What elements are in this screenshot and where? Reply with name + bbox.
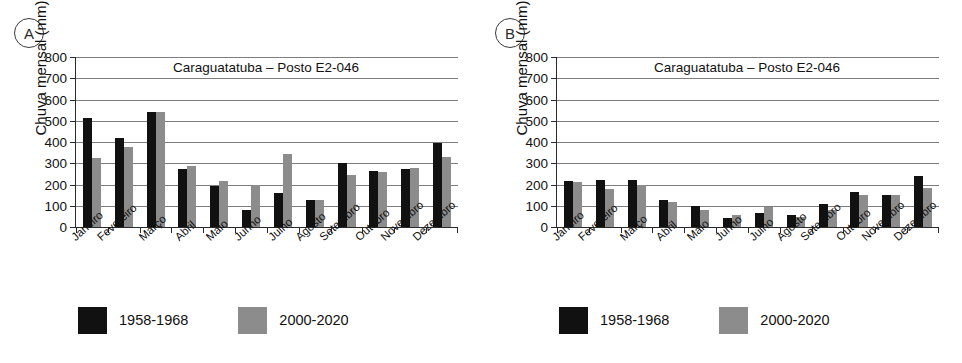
x-axis-label-cell: Maio <box>202 232 234 290</box>
y-axis-tick-label: 800 <box>44 50 67 65</box>
legend-item-1958-1968: 1958-1968 <box>559 307 669 334</box>
x-axis-label-cell: Março <box>139 232 171 290</box>
x-axis-label-cell: Abril <box>651 232 683 290</box>
x-axis-tick <box>938 227 939 233</box>
x-axis-label-cell: Setembro <box>811 232 843 290</box>
legend-item-2000-2020: 2000-2020 <box>719 307 829 334</box>
bar-group <box>684 57 716 227</box>
y-axis-tick-label: 200 <box>44 177 67 192</box>
x-axis-label-cell: Dezembro <box>425 232 457 290</box>
x-axis-labels: JaneiroFevereiroMarçoAbrilMaioJunhoJulho… <box>556 232 938 290</box>
x-axis-label-cell: Julho <box>266 232 298 290</box>
y-axis-tick-label: 100 <box>525 198 548 213</box>
y-axis-tick-label: 400 <box>44 135 67 150</box>
bar-group <box>843 57 875 227</box>
x-axis-label-cell: Junho <box>234 232 266 290</box>
x-axis-label-cell: Julho <box>747 232 779 290</box>
y-axis-tick-label: 700 <box>525 71 548 86</box>
x-axis-label-cell: Setembro <box>330 232 362 290</box>
legend-label: 2000-2020 <box>279 312 348 328</box>
x-axis-label-cell: Abril <box>170 232 202 290</box>
y-axis-tick-label: 0 <box>59 220 67 235</box>
y-axis-tick-label: 700 <box>44 71 67 86</box>
legend-item-2000-2020: 2000-2020 <box>238 307 348 334</box>
bar-group <box>171 57 203 227</box>
legend-swatch-icon <box>238 307 267 334</box>
y-axis-tick-label: 500 <box>525 113 548 128</box>
x-axis-labels: JaneiroFevereiroMarçoAbrilMaioJunhoJulho… <box>75 232 457 290</box>
x-axis-label-cell: Maio <box>683 232 715 290</box>
x-axis-label-cell: Dezembro <box>906 232 938 290</box>
x-axis-label-cell: Fevereiro <box>588 232 620 290</box>
bar <box>178 169 187 227</box>
y-axis-tick-label: 300 <box>525 156 548 171</box>
bar-group <box>812 57 844 227</box>
y-axis-tick-label: 600 <box>44 92 67 107</box>
legend-swatch-icon <box>559 307 588 334</box>
y-axis-tick-label: 200 <box>525 177 548 192</box>
bar-group <box>875 57 907 227</box>
bar-group <box>108 57 140 227</box>
x-axis-label-cell: Março <box>620 232 652 290</box>
bar-group <box>621 57 653 227</box>
bar-group <box>331 57 363 227</box>
y-axis-tick-label: 500 <box>44 113 67 128</box>
legend: 1958-1968 2000-2020 <box>551 305 951 335</box>
bar-group <box>235 57 267 227</box>
bar <box>83 118 92 227</box>
legend-label: 1958-1968 <box>600 312 669 328</box>
bar-group <box>76 57 108 227</box>
y-axis-tick-label: 300 <box>44 156 67 171</box>
bar-group <box>394 57 426 227</box>
legend-label: 1958-1968 <box>119 312 188 328</box>
rainfall-comparison-figure: A Chuva mensal (mm) Caraguatatuba – Post… <box>0 0 962 363</box>
legend-swatch-icon <box>719 307 748 334</box>
bar-group <box>780 57 812 227</box>
bar <box>147 112 156 227</box>
bar <box>156 112 165 227</box>
legend: 1958-1968 2000-2020 <box>70 305 470 335</box>
y-axis-tick-label: 100 <box>44 198 67 213</box>
y-axis-tick-label: 600 <box>525 92 548 107</box>
bar-group <box>748 57 780 227</box>
bar-group <box>267 57 299 227</box>
x-axis-label-cell: Junho <box>715 232 747 290</box>
bar-group <box>716 57 748 227</box>
legend-swatch-icon <box>78 307 107 334</box>
y-axis-tick-label: 0 <box>540 220 548 235</box>
legend-item-1958-1968: 1958-1968 <box>78 307 188 334</box>
y-axis-tick-label: 800 <box>525 50 548 65</box>
bar-group <box>203 57 235 227</box>
y-axis-tick-label: 400 <box>525 135 548 150</box>
x-axis-tick <box>457 227 458 233</box>
bar-group <box>557 57 589 227</box>
bar-series-container <box>76 57 458 227</box>
bar-series-container <box>557 57 939 227</box>
bar-group <box>140 57 172 227</box>
bar-group <box>299 57 331 227</box>
bar-group <box>652 57 684 227</box>
bar-group <box>589 57 621 227</box>
chart-panel-b: B Chuva mensal (mm) Caraguatatuba – Post… <box>481 0 962 363</box>
x-axis-label-cell: Fevereiro <box>107 232 139 290</box>
legend-label: 2000-2020 <box>760 312 829 328</box>
chart-panel-a: A Chuva mensal (mm) Caraguatatuba – Post… <box>0 0 481 363</box>
bar-group <box>362 57 394 227</box>
